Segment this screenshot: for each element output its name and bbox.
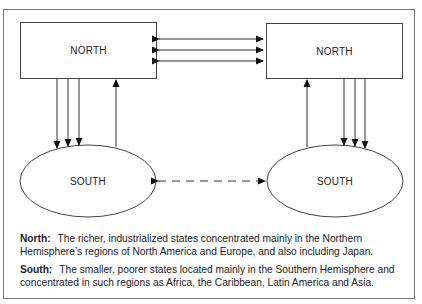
legend-north-term: North: (20, 233, 51, 244)
legend-south-term: South: (20, 264, 52, 275)
north-to-south-right-arrows (307, 79, 365, 148)
south-left-label: SOUTH (20, 176, 156, 187)
legend-north-definition: The richer, industrialized states concen… (20, 233, 373, 257)
legend-north: North:The richer, industrialized states … (20, 232, 415, 258)
north-north-arrows (159, 39, 263, 61)
legend-south-definition: The smaller, poorer states located mainl… (20, 264, 394, 288)
north-to-south-left-arrows (57, 79, 116, 148)
south-right-label: SOUTH (267, 176, 403, 187)
legend-south: South:The smaller, poorer states located… (20, 263, 415, 289)
north-left-label: NORTH (20, 45, 157, 56)
north-right-label: NORTH (266, 46, 403, 57)
